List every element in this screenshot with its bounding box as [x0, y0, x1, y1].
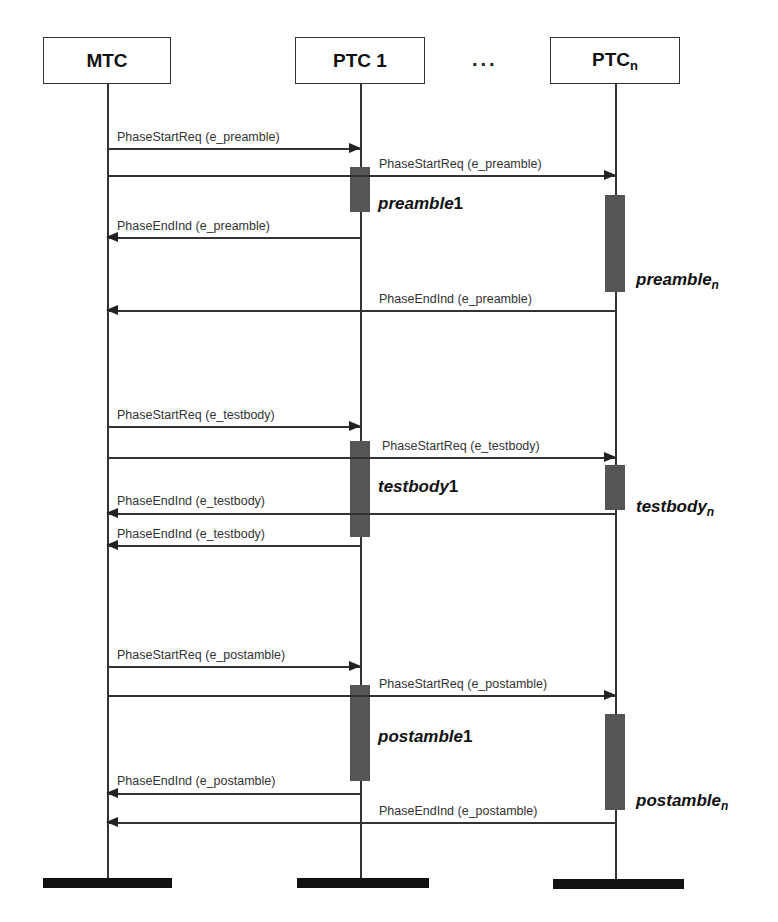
participant-ptc1-label: PTC 1 — [333, 50, 387, 72]
participant-ptc1: PTC 1 — [295, 37, 425, 84]
ellipsis: ... — [472, 48, 498, 71]
message-label: PhaseStartReq (e_testbody) — [382, 439, 540, 453]
arrowhead-icon — [604, 690, 616, 700]
message-arrow — [107, 793, 360, 795]
arrowhead-icon — [106, 305, 118, 315]
arrowhead-icon — [349, 421, 361, 431]
message-label: PhaseStartReq (e_preamble) — [379, 157, 542, 171]
arrowhead-icon — [106, 788, 118, 798]
phase-label: preamble1 — [378, 194, 463, 214]
participant-ptcn: PTCn — [550, 37, 680, 84]
message-label: PhaseStartReq (e_postamble) — [379, 677, 547, 691]
phase-label: postamblen — [636, 791, 728, 813]
lifeline-mtc — [107, 84, 109, 880]
message-arrow — [107, 310, 615, 312]
arrowhead-icon — [349, 661, 361, 671]
message-arrow — [107, 457, 615, 459]
message-arrow — [107, 237, 360, 239]
message-arrow — [107, 148, 360, 150]
activation-testbody-ptc1 — [350, 441, 370, 537]
message-label: PhaseStartReq (e_testbody) — [117, 408, 275, 422]
message-label: PhaseEndInd (e_postamble) — [117, 774, 275, 788]
message-arrow — [107, 175, 615, 177]
message-label: PhaseStartReq (e_preamble) — [117, 130, 280, 144]
phase-label: testbody1 — [378, 477, 458, 497]
activation-testbody-ptcn — [605, 465, 625, 510]
end-bar-ptc1 — [297, 878, 429, 888]
end-bar-ptcn — [553, 879, 684, 889]
activation-postamble-ptcn — [605, 714, 625, 810]
arrowhead-icon — [106, 540, 118, 550]
arrowhead-icon — [604, 452, 616, 462]
participant-mtc: MTC — [43, 37, 171, 84]
message-label: PhaseEndInd (e_testbody) — [117, 494, 265, 508]
arrowhead-icon — [106, 817, 118, 827]
arrowhead-icon — [604, 170, 616, 180]
arrowhead-icon — [106, 508, 118, 518]
message-arrow — [107, 545, 360, 547]
message-arrow — [107, 822, 615, 824]
message-arrow — [107, 513, 615, 515]
message-label: PhaseEndInd (e_postamble) — [379, 804, 537, 818]
arrowhead-icon — [106, 232, 118, 242]
participant-mtc-label: MTC — [86, 50, 127, 72]
phase-label: postamble1 — [378, 727, 473, 747]
activation-preamble-ptcn — [605, 195, 625, 292]
end-bar-mtc — [43, 878, 172, 888]
phase-label: preamblen — [636, 270, 719, 292]
message-label: PhaseEndInd (e_preamble) — [117, 219, 270, 233]
message-arrow — [107, 666, 360, 668]
activation-postamble-ptc1 — [350, 685, 370, 781]
phase-label: testbodyn — [636, 497, 714, 519]
arrowhead-icon — [349, 143, 361, 153]
activation-preamble-ptc1 — [350, 167, 370, 212]
message-arrow — [107, 426, 360, 428]
message-arrow — [107, 695, 615, 697]
message-label: PhaseEndInd (e_preamble) — [379, 292, 532, 306]
participant-ptcn-label: PTCn — [592, 49, 638, 73]
message-label: PhaseEndInd (e_testbody) — [117, 527, 265, 541]
message-label: PhaseStartReq (e_postamble) — [117, 648, 285, 662]
